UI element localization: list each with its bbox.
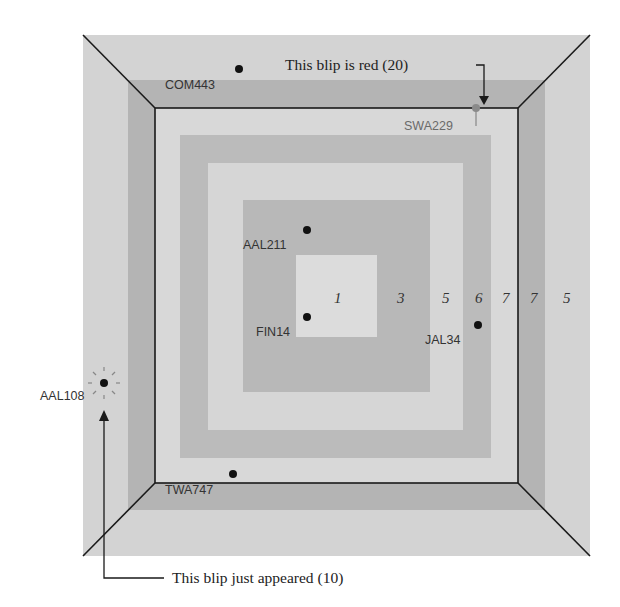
- band-number-5-outer: 5: [563, 291, 571, 306]
- blip-aal211[interactable]: [303, 226, 311, 234]
- blip-com443[interactable]: [235, 65, 243, 73]
- blip-label-aal108: AAL108: [40, 390, 84, 403]
- band-number-6: 6: [475, 291, 483, 306]
- blip-label-swa229: SWA229: [404, 120, 453, 133]
- band-number-7-inner: 7: [502, 291, 510, 306]
- blip-fin14[interactable]: [303, 313, 311, 321]
- blip-label-fin14: FIN14: [256, 326, 290, 339]
- blip-aal108[interactable]: [100, 379, 108, 387]
- band-number-5: 5: [442, 291, 450, 306]
- annotation-red-blip: This blip is red (20): [285, 57, 408, 73]
- band-number-3: 3: [397, 291, 405, 306]
- band-number-7-outer: 7: [530, 291, 538, 306]
- blip-swa229[interactable]: [472, 104, 480, 112]
- frame-lines: [0, 0, 620, 607]
- band-number-1: 1: [334, 291, 342, 306]
- blip-twa747[interactable]: [229, 470, 237, 478]
- blip-label-jal34: JAL34: [425, 334, 460, 347]
- blip-label-com443: COM443: [165, 79, 215, 92]
- annotation-new-blip: This blip just appeared (10): [172, 570, 343, 586]
- blip-label-aal211: AAL211: [243, 239, 287, 252]
- blip-label-twa747: TWA747: [165, 484, 213, 497]
- blip-jal34[interactable]: [474, 321, 482, 329]
